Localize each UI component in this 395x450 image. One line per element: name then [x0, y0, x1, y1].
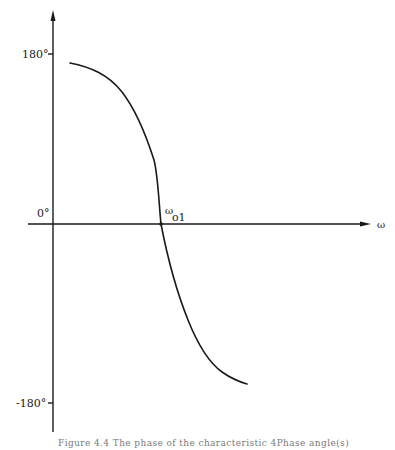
phase-plot-figure: 180° 0° -180° ω ω o1 Figure 4.4 The phas… [0, 0, 395, 450]
y-axis [48, 10, 56, 432]
phase-plot-svg: 180° 0° -180° ω ω o1 [0, 0, 395, 450]
y-label-neg180: -180° [16, 397, 46, 410]
y-axis-arrow-icon [51, 10, 56, 21]
x-axis-arrow-icon [360, 222, 371, 227]
figure-caption: Figure 4.4 The phase of the characterist… [58, 438, 378, 448]
y-label-0: 0° [37, 207, 50, 220]
x-axis-label-omega: ω [377, 219, 385, 230]
crossing-label-subscript: o1 [172, 211, 186, 224]
x-axis [28, 222, 371, 227]
zero-crossing-point [159, 222, 163, 226]
y-label-180: 180° [22, 48, 49, 61]
